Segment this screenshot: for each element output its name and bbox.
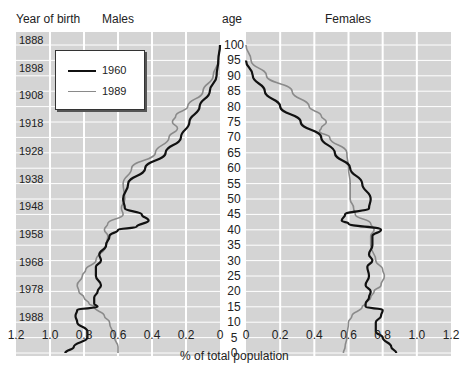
females-title: Females bbox=[325, 12, 371, 26]
age-tick-label: 50 bbox=[224, 192, 244, 206]
year-of-birth-tick-label: 1988 bbox=[19, 311, 43, 323]
x-tick-label: 0.8 bbox=[69, 328, 99, 342]
age-tick-label: 45 bbox=[224, 207, 244, 221]
x-tick-label: 1.2 bbox=[436, 328, 466, 342]
age-axis-title: age bbox=[222, 12, 242, 26]
age-tick-label: 95 bbox=[224, 53, 244, 67]
legend: 1960 1989 bbox=[55, 50, 145, 110]
age-tick-label: 55 bbox=[224, 177, 244, 191]
age-tick-label: 40 bbox=[224, 223, 244, 237]
x-tick-label: 0 bbox=[231, 328, 261, 342]
age-tick-label: 90 bbox=[224, 69, 244, 83]
age-tick-label: 30 bbox=[224, 254, 244, 268]
age-tick-label: 100 bbox=[224, 38, 244, 52]
males-title: Males bbox=[102, 12, 134, 26]
year-of-birth-tick-label: 1888 bbox=[19, 34, 43, 46]
legend-swatch-1960 bbox=[68, 70, 96, 72]
x-tick-label: 1.2 bbox=[1, 328, 31, 342]
year-of-birth-tick-label: 1958 bbox=[19, 228, 43, 240]
x-tick-label: 1.0 bbox=[35, 328, 65, 342]
year-of-birth-tick-label: 1908 bbox=[19, 89, 43, 101]
age-tick-label: 85 bbox=[224, 84, 244, 98]
year-of-birth-tick-label: 1928 bbox=[19, 145, 43, 157]
age-tick-label: 80 bbox=[224, 100, 244, 114]
age-tick-label: 70 bbox=[224, 130, 244, 144]
x-tick-label: 0.4 bbox=[299, 328, 329, 342]
year-of-birth-tick-label: 1968 bbox=[19, 256, 43, 268]
x-tick-label: 0.6 bbox=[103, 328, 133, 342]
year-of-birth-tick-label: 1948 bbox=[19, 200, 43, 212]
age-tick-label: 20 bbox=[224, 284, 244, 298]
x-tick-label: 0.2 bbox=[265, 328, 295, 342]
age-tick-label: 0 bbox=[224, 346, 244, 360]
age-tick-label: 60 bbox=[224, 161, 244, 175]
legend-swatch-1989 bbox=[68, 91, 96, 92]
x-tick-label: 0.8 bbox=[368, 328, 398, 342]
age-tick-label: 75 bbox=[224, 115, 244, 129]
legend-label-1960: 1960 bbox=[102, 64, 126, 76]
x-tick-label: 0.4 bbox=[137, 328, 167, 342]
year-of-birth-axis-title: Year of birth bbox=[16, 12, 80, 26]
x-tick-label: 1.0 bbox=[402, 328, 432, 342]
age-tick-label: 35 bbox=[224, 238, 244, 252]
legend-label-1989: 1989 bbox=[102, 85, 126, 97]
year-of-birth-tick-label: 1978 bbox=[19, 283, 43, 295]
age-tick-label: 25 bbox=[224, 269, 244, 283]
age-tick-label: 65 bbox=[224, 146, 244, 160]
age-tick-label: 15 bbox=[224, 300, 244, 314]
x-tick-label: 0.2 bbox=[171, 328, 201, 342]
year-of-birth-tick-label: 1918 bbox=[19, 117, 43, 129]
year-of-birth-tick-label: 1938 bbox=[19, 173, 43, 185]
females-panel bbox=[246, 32, 451, 356]
x-tick-label: 0.6 bbox=[334, 328, 364, 342]
year-of-birth-tick-label: 1898 bbox=[19, 62, 43, 74]
